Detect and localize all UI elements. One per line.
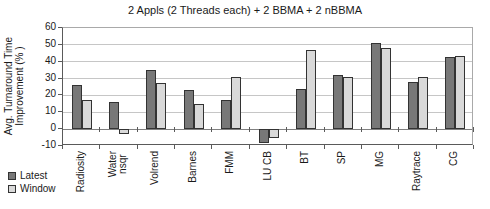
y-tick-mark [58,44,62,45]
x-category-label: LU CB [263,151,273,180]
x-category-label: FMM [225,151,235,174]
x-category-label: Raytrace [412,151,422,191]
legend-label: Window [20,183,56,194]
x-category-label: Radiosity [76,151,86,192]
y-tick-label: -10 [28,140,56,150]
category-axis-tick [286,127,287,132]
bar-latest [371,43,381,129]
bar-latest [296,89,306,129]
bar-window [194,104,204,129]
category-axis-tick [324,145,325,149]
plot-area [62,27,473,145]
bar-window [156,83,166,129]
x-category-label: Volrend [150,151,160,185]
bar-latest [333,75,343,129]
bar-window [119,129,129,134]
bar-latest [408,82,418,129]
gridline [63,44,472,45]
y-tick-label: 40 [28,56,56,66]
category-axis-tick [62,127,63,132]
bar-window [455,56,465,129]
bar-latest [184,90,194,129]
bar-window [231,77,241,129]
legend-label: Latest [20,170,47,181]
category-axis-tick [211,127,212,132]
bar-latest [72,85,82,129]
category-axis-tick [211,145,212,149]
y-tick-label: 20 [28,89,56,99]
bar-latest [259,129,269,142]
category-axis-tick [361,145,362,149]
chart-title: 2 Appls (2 Threads each) + 2 BBMA + 2 nB… [0,4,490,16]
category-axis-tick [137,127,138,132]
legend-item-latest: Latest [8,169,56,182]
x-category-label: MG [375,151,385,167]
y-tick-label: 10 [28,106,56,116]
legend-swatch-icon [8,185,16,193]
category-axis-tick [174,127,175,132]
bar-window [306,50,316,129]
category-axis-tick [137,145,138,149]
legend: LatestWindow [8,169,56,195]
y-tick-mark [58,27,62,28]
y-tick-mark [58,94,62,95]
category-axis-tick [249,127,250,132]
bar-window [381,48,391,129]
category-axis-tick [286,145,287,149]
gridline [63,78,472,79]
x-category-label: SP [337,151,347,164]
y-axis-title: Avg. Turnaround Time Improvement (% ) [3,37,25,135]
x-category-label: BT [300,151,310,164]
category-axis-tick [324,127,325,132]
y-tick-mark [58,78,62,79]
legend-item-window: Window [8,182,56,195]
y-tick-label: 50 [28,39,56,49]
bar-latest [445,57,455,129]
bar-latest [109,102,119,129]
category-axis-tick [174,145,175,149]
legend-swatch-icon [8,172,16,180]
y-tick-label: 30 [28,73,56,83]
category-axis-tick [99,127,100,132]
category-axis-tick [436,127,437,132]
bar-latest [146,70,156,129]
y-tick-mark [58,111,62,112]
category-axis-tick [99,145,100,149]
bar-window [269,129,279,137]
category-axis-tick [473,127,474,132]
category-axis-tick [436,145,437,149]
category-axis-tick [249,145,250,149]
bar-chart: 2 Appls (2 Threads each) + 2 BBMA + 2 nB… [0,0,490,209]
x-category-label: Barnes [188,151,198,183]
category-axis-tick [361,127,362,132]
gridline [63,61,472,62]
x-category-label: Water nsqr [108,151,128,177]
category-axis-tick [62,145,63,149]
category-axis-tick [473,145,474,149]
x-category-label: CG [449,151,459,166]
bar-window [343,77,353,129]
bar-window [418,77,428,129]
category-axis-tick [398,127,399,132]
category-axis-tick [398,145,399,149]
y-tick-mark [58,61,62,62]
bar-latest [221,100,231,129]
bar-window [82,100,92,130]
y-tick-label: 0 [28,123,56,133]
y-tick-label: 60 [28,22,56,32]
